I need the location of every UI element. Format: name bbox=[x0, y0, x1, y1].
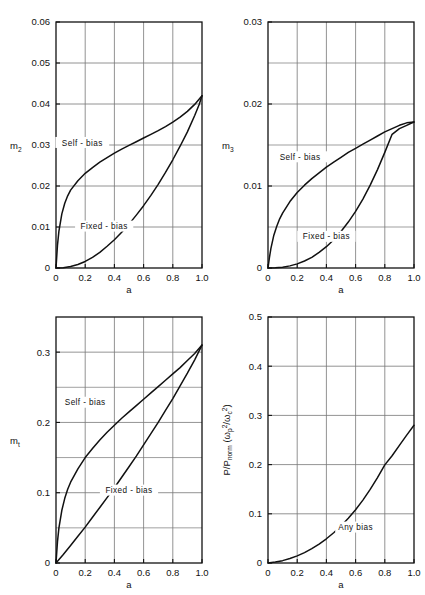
ytick-label: 0.01 bbox=[244, 180, 263, 191]
curve-label: Self - bias bbox=[280, 153, 321, 162]
svg-text:m3: m3 bbox=[222, 140, 234, 153]
ytick-label: 0 bbox=[45, 262, 50, 273]
plot-svg-m3: 00.010.020.0300.20.40.60.81.0am3Self - b… bbox=[212, 0, 425, 300]
ytick-label: 0.2 bbox=[37, 417, 50, 428]
y-axis-label: m3 bbox=[222, 140, 234, 153]
plot-panel-power: 00.10.20.30.40.500.20.40.60.81.0aP/Pnorm… bbox=[212, 295, 425, 595]
x-axis-label: a bbox=[126, 579, 132, 590]
xtick-label: 0.8 bbox=[166, 272, 179, 283]
ytick-label: 0.5 bbox=[249, 311, 262, 322]
xtick-label: 0.4 bbox=[320, 567, 333, 578]
ytick-label: 0.06 bbox=[32, 16, 51, 27]
xtick-label: 1.0 bbox=[407, 567, 420, 578]
xtick-label: 0 bbox=[265, 272, 270, 283]
ytick-label: 0 bbox=[257, 262, 262, 273]
curve-label: Fixed - bias bbox=[303, 232, 350, 241]
curve-label: Any bias bbox=[338, 523, 373, 532]
ytick-label: 0.1 bbox=[249, 508, 262, 519]
xtick-label: 0.4 bbox=[320, 272, 333, 283]
ytick-label: 0.04 bbox=[32, 98, 51, 109]
xtick-label: 0.6 bbox=[137, 567, 150, 578]
xtick-label: 0.8 bbox=[378, 272, 391, 283]
xtick-label: 0.6 bbox=[137, 272, 150, 283]
svg-text:m2: m2 bbox=[10, 140, 22, 153]
ytick-label: 0.3 bbox=[249, 410, 262, 421]
ytick-label: 0.05 bbox=[32, 57, 51, 68]
plot-frame bbox=[56, 317, 202, 563]
xtick-label: 0 bbox=[53, 272, 58, 283]
ytick-label: 0.02 bbox=[32, 180, 51, 191]
ytick-label: 0.3 bbox=[37, 347, 50, 358]
ytick-label: 0.4 bbox=[249, 361, 262, 372]
plot-svg-m2: 00.010.020.030.040.050.0600.20.40.60.81.… bbox=[0, 0, 214, 300]
ytick-label: 0.01 bbox=[32, 221, 51, 232]
figure-four-panel-plots: 00.010.020.030.040.050.0600.20.40.60.81.… bbox=[0, 0, 425, 595]
svg-text:P/Pnorm (ωp2/ωc2): P/Pnorm (ωp2/ωc2) bbox=[221, 404, 235, 475]
y-axis-label: mt bbox=[10, 435, 20, 448]
xtick-label: 0 bbox=[53, 567, 58, 578]
curve-self-bias bbox=[56, 96, 202, 268]
y-axis-label: P/Pnorm (ωp2/ωc2) bbox=[221, 404, 235, 475]
curve-any-bias bbox=[268, 425, 414, 563]
curve-self-bias bbox=[268, 122, 414, 268]
xtick-label: 0.2 bbox=[291, 567, 304, 578]
xtick-label: 1.0 bbox=[195, 272, 208, 283]
curve-fixed-bias bbox=[56, 345, 202, 563]
plot-svg-power: 00.10.20.30.40.500.20.40.60.81.0aP/Pnorm… bbox=[212, 295, 425, 595]
curve-label: Fixed - bias bbox=[81, 222, 128, 231]
xtick-label: 1.0 bbox=[195, 567, 208, 578]
ytick-label: 0.2 bbox=[249, 459, 262, 470]
xtick-label: 1.0 bbox=[407, 272, 420, 283]
xtick-label: 0.8 bbox=[378, 567, 391, 578]
plot-panel-mt: 00.10.20.300.20.40.60.81.0amtSelf - bias… bbox=[0, 295, 214, 595]
xtick-label: 0.2 bbox=[291, 272, 304, 283]
ytick-label: 0 bbox=[45, 557, 50, 568]
plot-panel-m3: 00.010.020.0300.20.40.60.81.0am3Self - b… bbox=[212, 0, 425, 300]
plot-panel-m2: 00.010.020.030.040.050.0600.20.40.60.81.… bbox=[0, 0, 214, 300]
curve-fixed-bias bbox=[268, 122, 414, 268]
ytick-label: 0.1 bbox=[37, 487, 50, 498]
xtick-label: 0.6 bbox=[349, 272, 362, 283]
xtick-label: 0.8 bbox=[166, 567, 179, 578]
plot-svg-mt: 00.10.20.300.20.40.60.81.0amtSelf - bias… bbox=[0, 295, 214, 595]
x-axis-label: a bbox=[338, 284, 344, 295]
curve-label: Self - bias bbox=[65, 398, 106, 407]
xtick-label: 0.4 bbox=[108, 567, 121, 578]
curve-fixed-bias bbox=[56, 96, 202, 268]
x-axis-label: a bbox=[338, 579, 344, 590]
ytick-label: 0 bbox=[257, 557, 262, 568]
curve-label: Self - bias bbox=[62, 139, 103, 148]
curve-self-bias bbox=[56, 345, 202, 563]
xtick-label: 0.2 bbox=[79, 272, 92, 283]
xtick-label: 0.6 bbox=[349, 567, 362, 578]
xtick-label: 0 bbox=[265, 567, 270, 578]
x-axis-label: a bbox=[126, 284, 132, 295]
xtick-label: 0.4 bbox=[108, 272, 121, 283]
xtick-label: 0.2 bbox=[79, 567, 92, 578]
svg-text:mt: mt bbox=[10, 435, 20, 448]
ytick-label: 0.03 bbox=[32, 139, 51, 150]
ytick-label: 0.02 bbox=[244, 98, 263, 109]
y-axis-label: m2 bbox=[10, 140, 22, 153]
ytick-label: 0.03 bbox=[244, 16, 263, 27]
curve-label: Fixed - bias bbox=[105, 486, 152, 495]
